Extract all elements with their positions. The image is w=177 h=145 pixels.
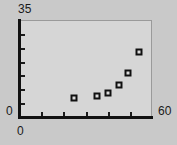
- plot-area: [19, 20, 152, 117]
- x-axis-tick: [108, 112, 110, 116]
- y-axis-tick: [21, 75, 25, 77]
- data-point-marker: [93, 93, 100, 100]
- data-point-marker: [104, 90, 111, 97]
- data-point-marker: [71, 94, 78, 101]
- scatter-chart-figure: 35 0 0 60: [0, 0, 177, 145]
- data-point-marker: [124, 69, 131, 76]
- y-axis-tick: [21, 34, 25, 36]
- y-axis-tick: [21, 89, 25, 91]
- x-axis-tick: [41, 112, 43, 116]
- x-axis-min-label: 0: [17, 125, 24, 138]
- x-axis-line: [18, 116, 153, 119]
- y-axis-min-label: 0: [6, 105, 13, 118]
- data-point-marker: [135, 48, 142, 55]
- x-axis-tick: [130, 112, 132, 116]
- data-point-marker: [115, 82, 122, 89]
- x-axis-max-label: 60: [158, 105, 171, 118]
- y-axis-tick: [21, 103, 25, 105]
- y-axis-tick: [21, 62, 25, 64]
- x-axis-tick: [86, 112, 88, 116]
- x-axis-tick: [63, 112, 65, 116]
- y-axis-max-label: 35: [18, 3, 31, 16]
- y-axis-tick: [21, 48, 25, 50]
